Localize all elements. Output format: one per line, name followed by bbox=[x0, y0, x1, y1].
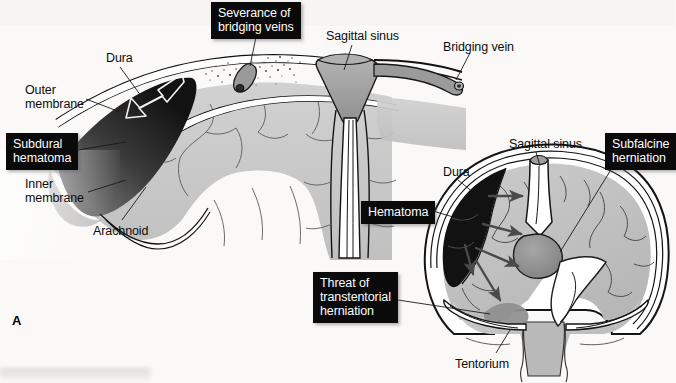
cerebellum-hint-right bbox=[580, 338, 624, 345]
callout-subdural-hematoma: Subdural hematoma bbox=[6, 133, 78, 170]
bottom-coronal-diagram bbox=[425, 144, 669, 382]
label-dura-bottom: Dura bbox=[443, 166, 470, 180]
bridging-vein-end-core bbox=[457, 84, 461, 88]
callout-hematoma: Hematoma bbox=[361, 201, 435, 224]
label-tentorium: Tentorium bbox=[455, 358, 509, 372]
callout-threat-of-transtentorial-herniation: Threat of transtentorial herniation bbox=[313, 272, 398, 323]
leader-bridging-vein bbox=[456, 53, 470, 80]
label-sagittal-sinus-bottom: Sagittal sinus bbox=[509, 138, 582, 152]
label-outer-membrane: Outer membrane bbox=[25, 84, 84, 111]
subfalcine-herniation-mass bbox=[513, 234, 562, 278]
label-arachnoid: Arachnoid bbox=[93, 225, 148, 239]
scan-smudge bbox=[0, 368, 150, 383]
scan-artifact-top bbox=[0, 0, 675, 26]
cortex-fold-lower bbox=[214, 186, 301, 246]
label-inner-membrane: Inner membrane bbox=[25, 178, 84, 205]
label-sagittal-sinus-top: Sagittal sinus bbox=[326, 30, 399, 44]
label-dura: Dura bbox=[106, 52, 133, 66]
callout-severance-of-bridging-veins: Severance of bridging veins bbox=[211, 2, 301, 39]
bridging-vein-lumen-cut bbox=[236, 85, 244, 92]
callout-subfalcine-herniation: Subfalcine herniation bbox=[605, 133, 676, 170]
sagittal-sinus-top-cap bbox=[318, 54, 372, 65]
label-bridging-vein: Bridging vein bbox=[443, 41, 514, 55]
brainstem-coronal bbox=[523, 322, 564, 376]
panel-letter-a: A bbox=[12, 313, 21, 328]
